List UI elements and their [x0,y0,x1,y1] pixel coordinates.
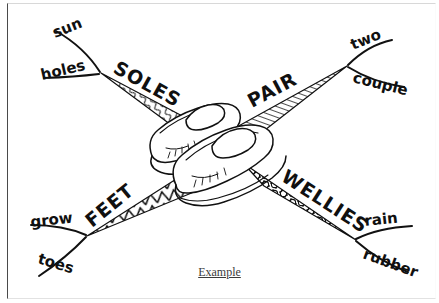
caption-text: Example [198,265,241,279]
branch-label-two: two [348,25,384,53]
branch-label-rain: rain [364,209,399,230]
branch-label-grow: grow [30,209,74,231]
spoke-wellies: WELLIES rain rubber [243,163,421,282]
word-web-diagram: SOLES sun holes PAIR two couple FEET gro… [0,0,439,303]
worksheet-page: SOLES sun holes PAIR two couple FEET gro… [0,0,439,303]
branch-label-holes: holes [39,56,87,84]
branch-label-couple: couple [351,68,410,99]
caption: Example [0,265,439,280]
spoke-pair: PAIR two couple [235,25,410,137]
